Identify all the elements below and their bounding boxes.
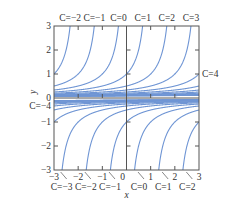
- side-curve-label-left: C=−4: [29, 101, 51, 111]
- solution-curves-chart: −3−2−10123−3−2−10123C=−2C=−1C=0C=1C=2C=3…: [0, 0, 240, 205]
- x-tick-label: −3: [49, 172, 59, 182]
- y-tick-label: 2: [46, 45, 51, 55]
- y-tick-label: −2: [41, 141, 51, 151]
- top-curve-label: C=2: [159, 13, 176, 23]
- bottom-curve-label: C=−2: [75, 182, 97, 192]
- y-axis-label: y: [28, 89, 38, 95]
- side-curve-label-right: C=4: [202, 69, 219, 79]
- bottom-curve-label: C=1: [155, 182, 172, 192]
- bottom-curve-label: C=−1: [99, 182, 121, 192]
- top-curve-label: C=1: [134, 13, 151, 23]
- bottom-curve-label: C=2: [179, 182, 196, 192]
- solution-curve: [179, 122, 199, 205]
- top-curve-label: C=−1: [83, 13, 105, 23]
- y-tick-label: 1: [46, 69, 51, 79]
- top-curve-label: C=3: [183, 13, 200, 23]
- y-tick-label: 3: [46, 21, 51, 31]
- axes-frame: [54, 26, 199, 170]
- x-tick-label: −2: [73, 172, 83, 182]
- bottom-curve-label: C=−3: [51, 182, 73, 192]
- x-tick-label: 3: [197, 172, 202, 182]
- x-tick-label: 0: [120, 172, 125, 182]
- solution-curve: [54, 0, 74, 74]
- y-tick-label: −1: [41, 117, 51, 127]
- x-axis-label: x: [123, 190, 129, 200]
- x-tick-label: −1: [97, 172, 107, 182]
- x-tick-label: 1: [148, 172, 153, 182]
- bottom-curve-label: C=0: [131, 182, 148, 192]
- top-curve-label: C=−2: [59, 13, 81, 23]
- x-tick-label: 2: [172, 172, 177, 182]
- top-curve-label: C=0: [110, 13, 127, 23]
